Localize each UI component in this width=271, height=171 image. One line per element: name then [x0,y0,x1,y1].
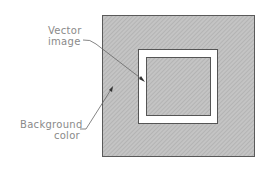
vector-label-line1: Vector [48,25,80,36]
background-color-label: Background color [20,119,80,141]
background-label-line2: color [20,130,80,141]
diagram-canvas [0,0,271,171]
background-label-line1: Background [20,119,80,130]
vector-label-line2: image [48,36,80,47]
vector-image-label: Vector image [48,25,80,47]
vector-image-inner [147,58,211,116]
